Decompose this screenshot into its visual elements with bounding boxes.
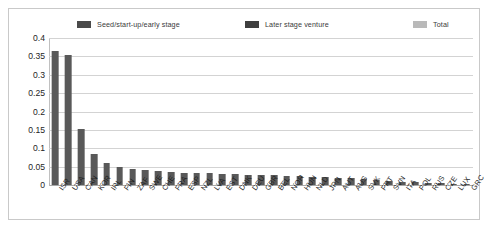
bar-slot — [126, 38, 139, 185]
bar-slot — [113, 38, 126, 185]
y-axis-tick-labels: 00.050.10.150.20.250.30.350.4 — [9, 38, 47, 186]
x-tick-mark — [422, 183, 423, 186]
bar-slot — [216, 38, 229, 185]
bar-slot — [447, 38, 460, 185]
x-tick-mark — [396, 183, 397, 186]
legend-label-seed: Seed/start-up/early stage — [97, 20, 180, 29]
y-tick-label: 0.1 — [33, 143, 45, 153]
y-tick-label: 0.4 — [33, 33, 45, 43]
x-tick-mark — [88, 183, 89, 186]
legend-swatch-seed — [77, 21, 91, 28]
x-tick-mark — [177, 183, 178, 186]
x-tick-mark — [229, 183, 230, 186]
x-tick-mark — [255, 183, 256, 186]
legend-item-total: Total — [413, 16, 449, 32]
legend-label-total: Total — [433, 20, 449, 29]
bar-slot — [267, 38, 280, 185]
x-tick-mark — [49, 183, 50, 186]
x-tick-mark — [242, 183, 243, 186]
bar-slot — [88, 38, 101, 185]
x-tick-mark — [267, 183, 268, 186]
x-tick-mark — [357, 183, 358, 186]
bar — [52, 51, 59, 185]
x-tick-mark — [434, 183, 435, 186]
y-tick-label: 0.2 — [33, 107, 45, 117]
x-tick-mark — [152, 183, 153, 186]
x-tick-mark — [447, 183, 448, 186]
bar-slot — [255, 38, 268, 185]
legend-swatch-total — [413, 21, 427, 28]
legend-label-later-stage: Later stage venture — [265, 20, 329, 29]
x-tick-mark — [165, 183, 166, 186]
bar-slot — [242, 38, 255, 185]
bar-slot — [165, 38, 178, 185]
x-tick-mark — [190, 183, 191, 186]
bar-slot — [190, 38, 203, 185]
x-tick-mark — [113, 183, 114, 186]
bar-series — [49, 38, 473, 185]
bar-slot — [383, 38, 396, 185]
bar-slot — [177, 38, 190, 185]
x-tick-mark — [345, 183, 346, 186]
bar-slot — [460, 38, 473, 185]
y-tick-label: 0.3 — [33, 70, 45, 80]
bar-slot — [75, 38, 88, 185]
bar-slot — [49, 38, 62, 185]
plot-area — [49, 38, 473, 186]
y-tick-label: 0.35 — [28, 51, 45, 61]
y-tick-label: 0.25 — [28, 88, 45, 98]
bar-slot — [409, 38, 422, 185]
x-tick-mark — [280, 183, 281, 186]
bar-slot — [280, 38, 293, 185]
x-tick-mark — [216, 183, 217, 186]
bar — [65, 55, 72, 185]
bar-slot — [139, 38, 152, 185]
x-tick-mark — [332, 183, 333, 186]
legend-item-seed: Seed/start-up/early stage — [77, 16, 180, 32]
bar-slot — [62, 38, 75, 185]
bar-slot — [293, 38, 306, 185]
y-tick-label: 0 — [40, 180, 45, 190]
bar-slot — [422, 38, 435, 185]
bar-slot — [434, 38, 447, 185]
x-tick-mark — [100, 183, 101, 186]
x-tick-mark — [370, 183, 371, 186]
x-tick-mark — [126, 183, 127, 186]
x-tick-mark — [139, 183, 140, 186]
legend-swatch-later-stage — [245, 21, 259, 28]
x-axis-tick-labels: ISRUSACANKORIRLFINZAFSWECHEFRAESPNZLLVAE… — [49, 187, 473, 233]
bar-slot — [345, 38, 358, 185]
bar-slot — [357, 38, 370, 185]
bar-slot — [306, 38, 319, 185]
x-tick-mark — [383, 183, 384, 186]
bar-slot — [203, 38, 216, 185]
bar-slot — [396, 38, 409, 185]
bar-slot — [332, 38, 345, 185]
bar-slot — [229, 38, 242, 185]
x-tick-mark — [75, 183, 76, 186]
y-tick-label: 0.05 — [28, 162, 45, 172]
y-tick-label: 0.15 — [28, 125, 45, 135]
chart-container: Seed/start-up/early stage Later stage ve… — [8, 8, 480, 220]
x-tick-mark — [203, 183, 204, 186]
bar-slot — [152, 38, 165, 185]
chart-legend: Seed/start-up/early stage Later stage ve… — [9, 16, 479, 32]
x-tick-mark — [62, 183, 63, 186]
bar-slot — [370, 38, 383, 185]
x-tick-mark — [460, 183, 461, 186]
legend-item-later-stage: Later stage venture — [245, 16, 329, 32]
x-tick-mark — [409, 183, 410, 186]
bar-slot — [100, 38, 113, 185]
x-tick-mark — [306, 183, 307, 186]
bar-slot — [319, 38, 332, 185]
x-tick-mark — [293, 183, 294, 186]
x-tick-mark — [319, 183, 320, 186]
